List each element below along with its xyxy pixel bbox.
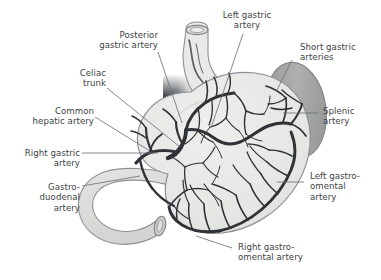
leader-right-gastroomental-artery [196, 236, 232, 248]
anatomy-figure: Posterior gastric artery Left gastric ar… [0, 0, 381, 280]
label-posterior-gastric-artery: Posterior gastric artery [60, 30, 158, 51]
label-splenic-artery: Splenic artery [323, 106, 379, 127]
label-right-gastric-artery: Right gastric artery [6, 148, 80, 169]
duodenum [78, 168, 172, 244]
label-common-hepatic-artery: Common hepatic artery [10, 106, 94, 127]
label-left-gastroomental-artery: Left gastro- omental artery [310, 171, 380, 202]
label-celiac-trunk: Celiac trunk [40, 68, 106, 89]
label-right-gastroomental-artery: Right gastro- omental artery [238, 242, 348, 263]
label-gastroduodenal-artery: Gastro- duodenal artery [12, 182, 80, 213]
label-short-gastric-arteries: Short gastric arteries [300, 42, 380, 63]
label-left-gastric-artery: Left gastric artery [208, 10, 286, 31]
